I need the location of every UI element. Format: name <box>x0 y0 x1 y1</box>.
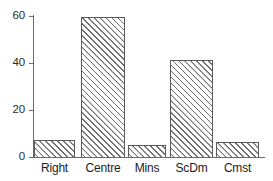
y-tick-mark-20 <box>29 110 34 111</box>
x-axis-label-cmst: Cmst <box>214 162 261 174</box>
y-tick-label-20: 20 <box>13 104 25 116</box>
bar-right <box>34 140 75 158</box>
y-tick-label-40: 40 <box>13 57 25 69</box>
bar-chart: 60 40 20 0 Right Centre Mins ScDm Cmst <box>0 0 273 181</box>
x-axis-label-right: Right <box>30 162 79 174</box>
x-axis-line <box>33 157 265 158</box>
bar-scdm <box>170 60 213 158</box>
y-axis-line <box>33 15 34 158</box>
bar-centre <box>81 17 125 158</box>
x-axis-label-mins: Mins <box>124 162 170 174</box>
y-tick-label-0: 0 <box>19 151 25 163</box>
y-tick-mark-40 <box>29 63 34 64</box>
x-axis-label-scdm: ScDm <box>168 162 215 174</box>
x-axis-label-centre: Centre <box>77 162 129 174</box>
y-tick-label-60: 60 <box>13 10 25 22</box>
bar-cmst <box>216 142 259 158</box>
y-tick-mark-60 <box>29 16 34 17</box>
